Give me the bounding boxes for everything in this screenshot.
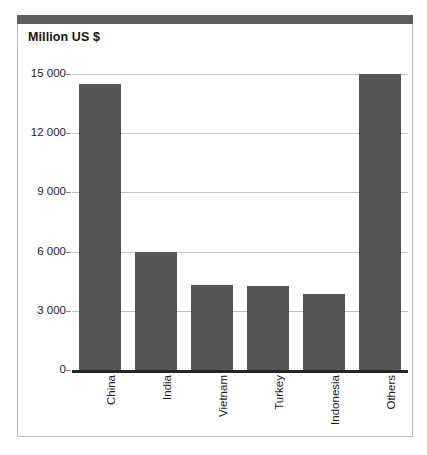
y-axis-tick	[66, 192, 71, 193]
bar	[247, 286, 289, 370]
y-axis-tick-label: 12 000	[31, 127, 66, 139]
gridline	[72, 192, 408, 193]
plot-area	[72, 74, 408, 370]
y-axis-tick	[66, 133, 71, 134]
y-axis-tick	[66, 252, 71, 253]
bar	[191, 285, 233, 370]
gridline	[72, 133, 408, 134]
header-bar	[17, 15, 413, 24]
gridline	[72, 74, 408, 75]
y-axis-tick-labels: 03 0006 0009 00012 00015 000	[18, 74, 66, 370]
bar	[359, 74, 401, 370]
x-axis-tick-label: Vietnam	[218, 375, 230, 417]
bar	[135, 252, 177, 370]
y-axis-tick	[66, 74, 71, 75]
x-axis-tick-label: India	[162, 375, 174, 400]
y-axis-tick	[66, 311, 71, 312]
gridline	[72, 311, 408, 312]
x-axis-tick-labels: ChinaIndiaVietnamTurkeyIndonesiaOthers	[72, 375, 408, 435]
chart-figure: Million US $ 03 0006 0009 00012 00015 00…	[0, 0, 427, 455]
x-axis-line	[72, 370, 408, 373]
y-axis-tick-label: 9 000	[37, 187, 66, 199]
y-axis-tick	[66, 370, 71, 371]
y-axis-tick-label: 3 000	[37, 305, 66, 317]
y-axis-tick-label: 6 000	[37, 246, 66, 258]
gridline	[72, 252, 408, 253]
x-axis-tick-label: China	[106, 375, 118, 405]
x-axis-tick-label: Turkey	[274, 375, 286, 410]
chart-title: Million US $	[28, 30, 100, 44]
x-axis-tick-label: Indonesia	[330, 375, 342, 425]
x-axis-tick-label: Others	[386, 375, 398, 410]
bar	[79, 84, 121, 370]
y-axis-tick-label: 15 000	[31, 68, 66, 80]
bar	[303, 294, 345, 370]
